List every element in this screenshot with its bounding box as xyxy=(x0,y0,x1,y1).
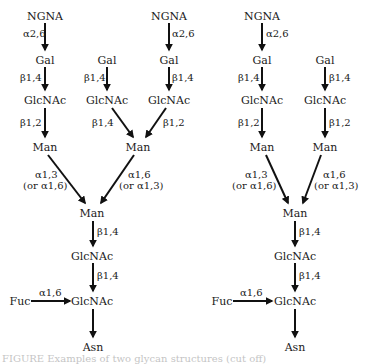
node-glcnac: GlcNAc xyxy=(24,94,66,107)
linkage-label: α1,3 xyxy=(35,169,58,180)
linkage-label-alt: (or α1,6) xyxy=(232,180,277,191)
node-fuc: Fuc xyxy=(10,295,31,308)
linkage-label-alt: (or α1,3) xyxy=(119,180,164,191)
arrow xyxy=(303,155,321,203)
linkage-label: β1,4 xyxy=(92,117,114,128)
linkage-label: β1,2 xyxy=(329,117,351,128)
linkage-label: β1,4 xyxy=(299,226,321,237)
linkage-label: α2,6 xyxy=(266,28,289,39)
linkage-label: β1,4 xyxy=(172,72,194,83)
linkage-label: α1,6 xyxy=(39,287,62,298)
linkage-label: β1,2 xyxy=(238,117,260,128)
figure-caption: FIGURE Examples of two glycan structures… xyxy=(2,353,266,364)
linkage-label: β1,4 xyxy=(329,72,351,83)
node-gal: Gal xyxy=(98,54,117,67)
linkage-label-alt: (or α1,3) xyxy=(314,180,359,191)
linkage-label: α1,6 xyxy=(240,287,263,298)
node-glcnac: GlcNAc xyxy=(304,94,346,107)
node-man: Man xyxy=(33,141,58,154)
node-gal: Gal xyxy=(316,54,335,67)
node-ngna: NGNA xyxy=(27,10,64,23)
left-glycan-diagram: NGNA Gal GlcNAc Man Gal GlcNAc NGNA Gal … xyxy=(10,10,195,354)
node-man: Man xyxy=(313,141,338,154)
node-gal: Gal xyxy=(160,54,179,67)
node-glcnac: GlcNAc xyxy=(241,94,283,107)
node-glcnac-core: GlcNAc xyxy=(274,250,316,263)
right-glycan-diagram: NGNA Gal GlcNAc Man Gal GlcNAc Man Man G… xyxy=(212,10,359,354)
linkage-label: β1,4 xyxy=(97,270,119,281)
node-glcnac: GlcNAc xyxy=(86,94,128,107)
node-man-core: Man xyxy=(283,207,308,220)
node-man-core: Man xyxy=(80,207,105,220)
linkage-label: β1,4 xyxy=(20,72,42,83)
node-glcnac-core: GlcNAc xyxy=(71,250,113,263)
linkage-label: β1,4 xyxy=(84,72,106,83)
linkage-label: α1,6 xyxy=(323,169,346,180)
node-glcnac-core: GlcNAc xyxy=(274,295,316,308)
node-asn: Asn xyxy=(284,341,306,354)
linkage-label: α1,6 xyxy=(128,169,151,180)
arrow xyxy=(112,108,133,137)
node-glcnac: GlcNAc xyxy=(148,94,190,107)
linkage-label: β1,4 xyxy=(299,270,321,281)
node-man: Man xyxy=(250,141,275,154)
linkage-label: α2,6 xyxy=(23,28,46,39)
node-ngna: NGNA xyxy=(244,10,281,23)
node-gal: Gal xyxy=(253,54,272,67)
node-gal: Gal xyxy=(36,54,55,67)
node-man: Man xyxy=(126,141,151,154)
linkage-label: β1,4 xyxy=(238,72,260,83)
linkage-label: β1,2 xyxy=(163,117,185,128)
glycan-figure: NGNA Gal GlcNAc Man Gal GlcNAc NGNA Gal … xyxy=(0,0,365,364)
node-glcnac-core: GlcNAc xyxy=(71,295,113,308)
arrow xyxy=(266,155,288,203)
linkage-label: β1,2 xyxy=(20,117,42,128)
linkage-label: β1,4 xyxy=(97,226,119,237)
node-ngna: NGNA xyxy=(151,10,188,23)
linkage-label-alt: (or α1,6) xyxy=(23,180,68,191)
node-fuc: Fuc xyxy=(212,295,233,308)
linkage-label: α2,6 xyxy=(172,28,195,39)
linkage-label: α1,3 xyxy=(245,169,268,180)
